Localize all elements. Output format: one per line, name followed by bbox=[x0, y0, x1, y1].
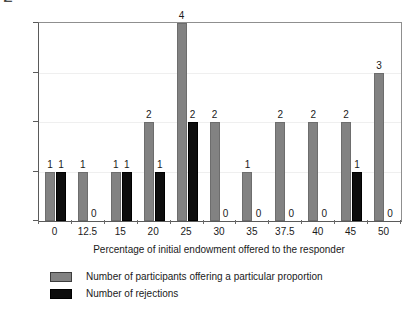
x-axis-tick-mark bbox=[203, 220, 204, 224]
x-axis-tick-label: 37.5 bbox=[268, 226, 301, 238]
x-axis-tick-label: 25 bbox=[170, 226, 203, 238]
bar-value-label: 2 bbox=[271, 109, 289, 120]
x-axis-tick-label: 35 bbox=[235, 226, 268, 238]
bar bbox=[111, 172, 121, 222]
y-axis-title: Number of participants bbox=[2, 0, 16, 50]
x-axis-tick-label: 0 bbox=[38, 226, 71, 238]
x-axis-tick-label: 20 bbox=[137, 226, 170, 238]
x-axis-tick-mark bbox=[71, 220, 72, 224]
bar bbox=[45, 172, 55, 222]
x-axis-tick-mark bbox=[104, 220, 105, 224]
bar-value-label: 2 bbox=[140, 109, 158, 120]
x-axis-tick-mark bbox=[137, 220, 138, 224]
x-axis-tick-mark bbox=[170, 220, 171, 224]
x-axis-tick-label: 30 bbox=[203, 226, 236, 238]
bar-value-label: 2 bbox=[337, 109, 355, 120]
bar bbox=[308, 122, 318, 221]
bar bbox=[122, 172, 132, 222]
bar-value-label: 1 bbox=[238, 159, 256, 170]
x-axis-tick-label: 15 bbox=[104, 226, 137, 238]
bar bbox=[144, 122, 154, 221]
x-axis-tick-mark bbox=[268, 220, 269, 224]
bar bbox=[374, 73, 384, 222]
bar bbox=[275, 122, 285, 221]
x-axis-tick-mark bbox=[38, 220, 39, 224]
bar-value-label: 0 bbox=[381, 208, 399, 219]
legend-item: Number of rejections bbox=[50, 287, 390, 302]
bar-value-label: 1 bbox=[118, 159, 136, 170]
x-axis-tick-mark bbox=[235, 220, 236, 224]
x-axis-title: Percentage of initial endowment offered … bbox=[38, 243, 400, 256]
x-axis-tick-label: 40 bbox=[301, 226, 334, 238]
bar bbox=[341, 122, 351, 221]
bar bbox=[56, 172, 66, 222]
bar bbox=[155, 172, 165, 222]
bar-value-label: 0 bbox=[315, 208, 333, 219]
bar bbox=[188, 122, 198, 221]
bar bbox=[177, 23, 187, 221]
bar-value-label: 1 bbox=[74, 159, 92, 170]
x-axis-tick-mark bbox=[334, 220, 335, 224]
legend-label: Number of rejections bbox=[86, 287, 178, 301]
legend-label: Number of participants offering a partic… bbox=[86, 270, 323, 284]
chart-legend: Number of participants offering a partic… bbox=[50, 270, 390, 304]
bar-value-label: 1 bbox=[52, 159, 70, 170]
x-axis-tick-label: 50 bbox=[367, 226, 400, 238]
bar-value-label: 0 bbox=[85, 208, 103, 219]
legend-item: Number of participants offering a partic… bbox=[50, 270, 390, 285]
legend-swatch bbox=[50, 289, 72, 299]
x-axis-tick-mark bbox=[301, 220, 302, 224]
bar-chart-figure: Number of participants 01234 11101121422… bbox=[0, 0, 413, 316]
x-axis-tick-mark bbox=[400, 220, 401, 224]
bar-value-label: 0 bbox=[217, 208, 235, 219]
bar-value-label: 3 bbox=[370, 60, 388, 71]
bar-value-label: 2 bbox=[184, 109, 202, 120]
bar-value-label: 4 bbox=[173, 10, 191, 21]
bar bbox=[352, 172, 362, 222]
bar-value-label: 2 bbox=[304, 109, 322, 120]
x-axis-tick-label: 45 bbox=[334, 226, 367, 238]
bar-value-label: 2 bbox=[206, 109, 224, 120]
bar-value-label: 1 bbox=[151, 159, 169, 170]
bar-value-label: 0 bbox=[249, 208, 267, 219]
bar bbox=[210, 122, 220, 221]
x-axis-tick-mark bbox=[367, 220, 368, 224]
x-axis-tick-label: 12.5 bbox=[71, 226, 104, 238]
bar-value-label: 0 bbox=[282, 208, 300, 219]
bar-value-label: 1 bbox=[348, 159, 366, 170]
legend-swatch bbox=[50, 272, 72, 282]
gridline bbox=[39, 73, 401, 74]
plot-area: 1110112142201020202130 bbox=[38, 22, 402, 222]
